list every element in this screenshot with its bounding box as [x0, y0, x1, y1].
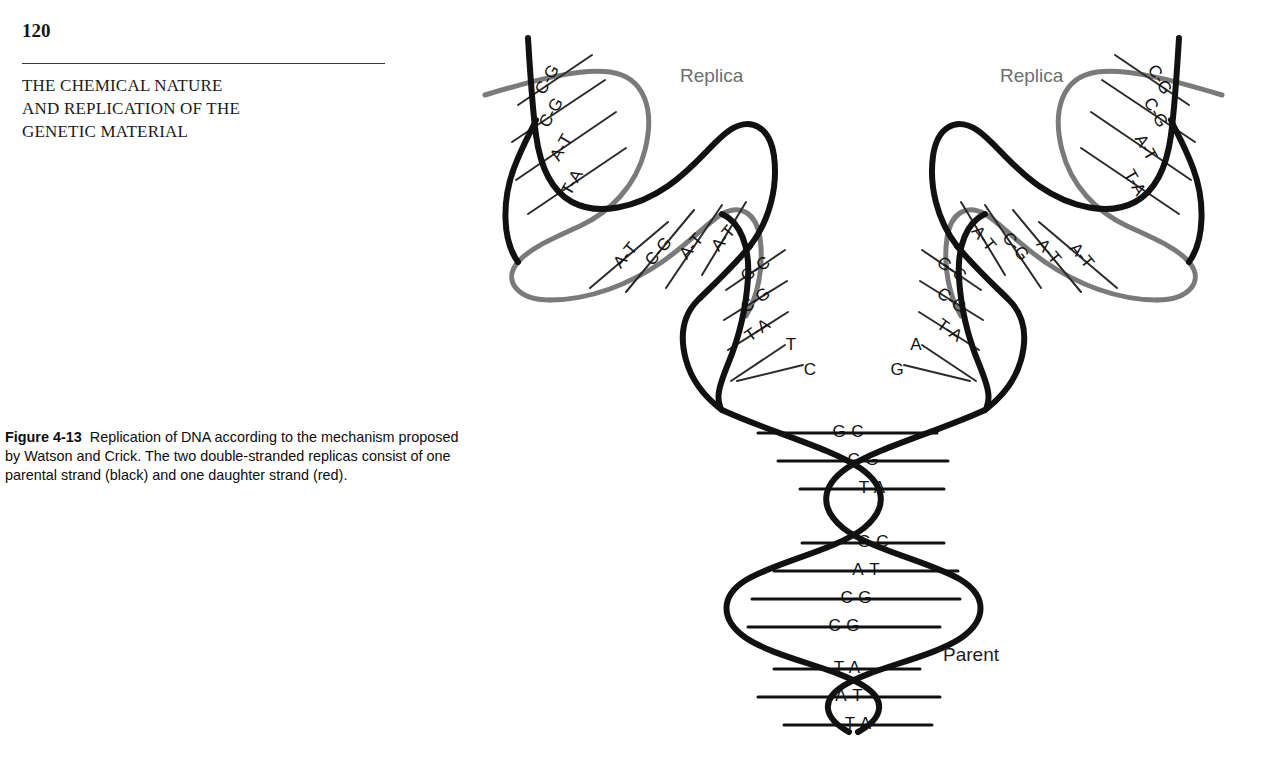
- base-pair-label: A-T: [1131, 131, 1161, 164]
- replica-label-left: Replica: [680, 65, 744, 86]
- base-pair-label: A-T: [852, 560, 879, 579]
- unpaired-base-label: C: [804, 360, 816, 379]
- base-pair-label: T-A: [741, 314, 774, 345]
- base-pair-label: C-G: [840, 588, 871, 607]
- page-number: 120: [22, 20, 51, 42]
- unpaired-base-label: G: [890, 360, 903, 379]
- base-pair-label: G-C: [832, 422, 863, 441]
- dna-replication-diagram: C-G C-G A-T T-A A-T C-G A-T A-T G-C C-G …: [440, 0, 1267, 777]
- base-pair-label: A-T: [546, 131, 576, 164]
- parent-label: Parent: [943, 644, 1000, 665]
- chapter-title-line-1: THE CHEMICAL NATURE: [22, 74, 442, 97]
- rung-unpaired: [904, 365, 970, 381]
- base-pair-label: A-T: [835, 686, 862, 705]
- base-pair-label: T-A: [933, 315, 966, 346]
- chapter-title: THE CHEMICAL NATURE AND REPLICATION OF T…: [22, 74, 442, 143]
- base-pair-labels-group: C-G C-G A-T T-A A-T C-G A-T A-T G-C C-G …: [531, 61, 1176, 733]
- figure-caption: Figure 4-13 Replication of DNA according…: [5, 428, 473, 485]
- header-divider: [22, 63, 385, 64]
- parental-strand-right-edge: [1171, 120, 1202, 262]
- base-pair-label: G-C: [857, 532, 888, 551]
- base-pair-label: C-G: [847, 450, 878, 469]
- chapter-title-line-3: GENETIC MATERIAL: [22, 120, 442, 143]
- unpaired-base-label: A: [910, 335, 922, 354]
- base-pair-label: T-A: [834, 658, 861, 677]
- replica-label-right: Replica: [1000, 65, 1064, 86]
- parental-strand-left-edge: [505, 120, 536, 262]
- chapter-title-line-2: AND REPLICATION OF THE: [22, 97, 442, 120]
- base-pair-label: T-A: [845, 714, 872, 733]
- figure-caption-label: Figure 4-13: [5, 429, 82, 445]
- unpaired-base-label: T: [786, 335, 796, 354]
- base-pair-label: C-G: [828, 616, 859, 635]
- base-pair-rungs-group: [512, 55, 1195, 381]
- base-pair-label: T-A: [859, 478, 886, 497]
- rung-unpaired: [737, 365, 803, 381]
- dna-replication-figure: C-G C-G A-T T-A A-T C-G A-T A-T G-C C-G …: [440, 0, 1267, 777]
- base-pair-label: C-G: [535, 94, 567, 130]
- daughter-strands-group: [485, 71, 1222, 316]
- base-pair-label: C-G: [1140, 94, 1172, 130]
